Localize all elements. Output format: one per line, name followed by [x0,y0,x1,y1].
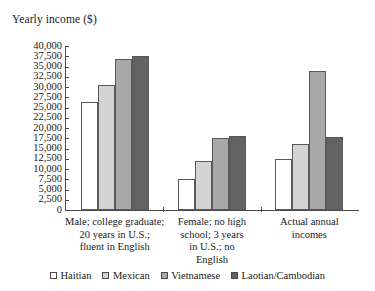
y-axis-tick-label: 0 [57,205,62,216]
bar [98,85,115,210]
legend-item-vietnamese[interactable]: Vietnamese [161,270,220,281]
bar [178,179,195,210]
legend-label: Laotian/Cambodian [242,270,325,281]
legend-swatch-icon [161,272,168,279]
legend-label: Vietnamese [171,270,220,281]
legend-swatch-icon [50,272,57,279]
x-axis-separator [163,207,164,212]
category-label-line: in U.S.; no [152,241,271,254]
y-axis-tick-labels: 40,00037,50035,00032,50030,00027,50025,0… [0,0,62,291]
bar [326,137,343,210]
x-axis-separator [261,207,262,212]
bar-group [275,46,343,210]
bar [229,136,246,210]
legend-swatch-icon [102,272,109,279]
legend-item-haitian[interactable]: Haitian [50,270,91,281]
x-axis-line [65,210,359,211]
x-axis-category-label: Actual annualincomes [250,216,369,241]
bar-group [81,46,149,210]
legend-label: Mexican [113,270,150,281]
bar-chart: Yearly income ($) 40,00037,50035,00032,5… [0,0,375,291]
legend-item-mexican[interactable]: Mexican [102,270,149,281]
plot-area [66,46,358,210]
bar [195,161,212,210]
category-label-line: English [152,254,271,267]
bar [275,159,292,210]
bar [81,102,98,210]
bar [309,71,326,210]
category-label-line: incomes [250,229,369,242]
bar [292,144,309,210]
bar [212,138,229,210]
legend-item-laotian-cambodian[interactable]: Laotian/Cambodian [231,270,325,281]
bar-group [178,46,246,210]
legend-label: Haitian [61,270,92,281]
category-label-line: Actual annual [250,216,369,229]
chart-legend: HaitianMexicanVietnameseLaotian/Cambodia… [0,270,375,281]
bar [132,56,149,210]
legend-swatch-icon [231,272,238,279]
bar [115,59,132,210]
